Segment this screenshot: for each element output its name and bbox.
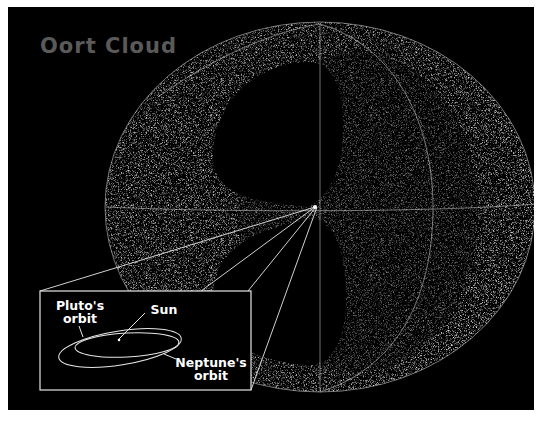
oort-cloud-illustration — [8, 7, 534, 410]
neptune-orbit-label: Neptune's orbit — [174, 356, 248, 382]
neptune-label-line2: orbit — [174, 369, 248, 382]
sun-label: Sun — [144, 303, 184, 316]
diagram-title: Oort Cloud — [40, 34, 177, 58]
pluto-orbit-label: Pluto's orbit — [52, 299, 108, 325]
pluto-label-line2: orbit — [52, 312, 108, 325]
sun-point — [313, 205, 317, 209]
diagram-panel: Oort Cloud Pluto's orbit Sun Neptune's o… — [8, 7, 534, 410]
